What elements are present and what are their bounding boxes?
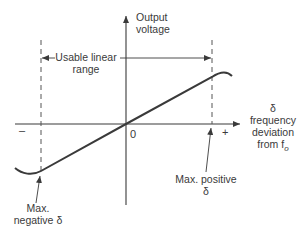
from-f-text: from f [257,138,284,150]
max-positive-line1: Max. positive [170,173,242,185]
origin-label: 0 [130,128,136,140]
x-axis-label-delta: δ [243,102,302,114]
x-axis-label-line3: deviation [243,126,302,138]
max-negative-line2: negative δ [8,214,68,226]
plus-label: + [222,126,228,138]
range-label-line2: range [53,63,119,75]
x-axis-label-line4: from fo [243,138,302,155]
s-curve [15,73,232,174]
y-axis-label-line1: Output [136,11,170,23]
minus-label: – [19,124,25,136]
max-negative-label: Max. negative δ [8,202,68,226]
max-positive-label: Max. positive δ [170,173,242,197]
range-label-line1: Usable linear [53,51,119,63]
range-label: Usable linear range [53,51,119,75]
x-axis-label-line2: frequency [243,114,302,126]
x-axis-label: δ frequency deviation from fo [243,102,302,155]
y-axis-label: Output voltage [136,11,170,35]
f-subscript: o [284,144,288,153]
max-negative-pointer [36,176,40,203]
max-positive-line2: δ [170,185,242,197]
y-axis-label-line2: voltage [136,23,170,35]
max-positive-pointer [206,128,211,172]
max-negative-line1: Max. [8,202,68,214]
